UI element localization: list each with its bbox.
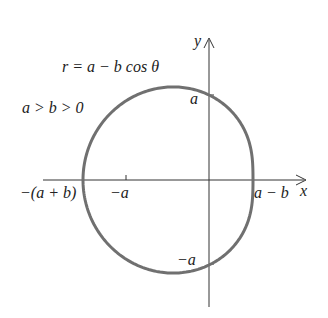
y-tick-a-label: a (190, 90, 198, 107)
x-tick-neg-a-label: −a (110, 184, 129, 201)
y-tick-neg-a-label: −a (177, 251, 196, 268)
equation-label: r = a − b cos θ (62, 58, 159, 75)
x-axis-label: x (299, 182, 307, 199)
condition-label: a > b > 0 (22, 99, 84, 116)
x-tick-neg-a-plus-b-label: −(a + b) (20, 184, 76, 202)
limacon-diagram: r = a − b cos θ a > b > 0 y x a −a −(a +… (0, 0, 328, 318)
x-tick-a-minus-b-label: a − b (254, 184, 289, 201)
y-axis-label: y (192, 32, 202, 50)
